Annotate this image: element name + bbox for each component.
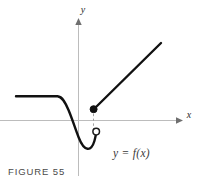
x-axis-label: x <box>186 109 192 120</box>
graph-canvas: y x y = f(x) FIGURE 55 <box>0 0 199 192</box>
open-endpoint-marker <box>93 128 100 135</box>
figure-caption: FIGURE 55 <box>8 166 65 177</box>
y-axis-label: y <box>80 4 86 15</box>
x-axis-arrowhead <box>176 117 183 124</box>
y-axis-arrowhead <box>75 18 81 25</box>
filled-endpoint-marker <box>90 106 97 113</box>
curve-left-branch <box>16 96 96 149</box>
figure-panel: y x y = f(x) FIGURE 55 <box>0 0 199 192</box>
function-equation-label: y = f(x) <box>112 147 150 160</box>
curve-right-ray <box>95 43 162 109</box>
